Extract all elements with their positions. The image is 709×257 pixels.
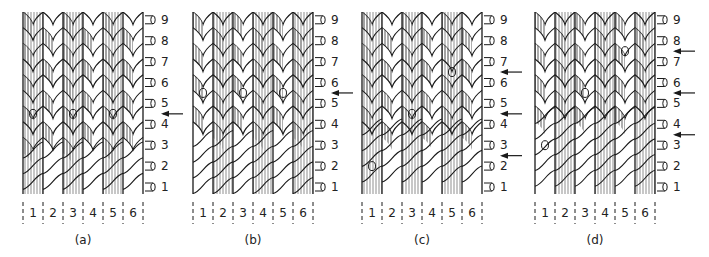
row-label-c-1: 1 (500, 181, 508, 193)
column-label-c-6: 6 (466, 207, 478, 219)
row-label-a-7: 7 (161, 56, 169, 68)
row-label-a-9: 9 (161, 14, 169, 26)
row-label-d-8: 8 (673, 35, 681, 47)
panel-c (360, 0, 522, 224)
row-label-b-4: 4 (331, 118, 339, 130)
row-label-d-6: 6 (673, 77, 681, 89)
row-label-b-6: 6 (331, 77, 339, 89)
panel-caption-d: (d) (575, 233, 615, 247)
row-label-c-7: 7 (500, 56, 508, 68)
row-label-a-4: 4 (161, 118, 169, 130)
row-label-c-8: 8 (500, 35, 508, 47)
row-label-c-5: 5 (500, 97, 508, 109)
row-label-a-8: 8 (161, 35, 169, 47)
row-label-d-1: 1 (673, 181, 681, 193)
column-label-b-1: 1 (197, 207, 209, 219)
column-label-b-5: 5 (277, 207, 289, 219)
row-label-d-3: 3 (673, 139, 681, 151)
column-label-c-4: 4 (426, 207, 438, 219)
row-label-b-9: 9 (331, 14, 339, 26)
row-label-b-2: 2 (331, 160, 339, 172)
column-label-d-2: 2 (559, 207, 571, 219)
row-label-b-7: 7 (331, 56, 339, 68)
panel-b (191, 0, 353, 224)
row-label-d-4: 4 (673, 118, 681, 130)
column-label-d-1: 1 (539, 207, 551, 219)
row-label-b-5: 5 (331, 97, 339, 109)
column-label-d-4: 4 (599, 207, 611, 219)
row-label-c-9: 9 (500, 14, 508, 26)
column-label-c-3: 3 (406, 207, 418, 219)
column-label-b-6: 6 (297, 207, 309, 219)
column-label-c-1: 1 (366, 207, 378, 219)
column-label-d-3: 3 (579, 207, 591, 219)
column-label-d-6: 6 (639, 207, 651, 219)
column-label-a-4: 4 (87, 207, 99, 219)
column-label-a-5: 5 (107, 207, 119, 219)
marker-o (539, 135, 551, 155)
row-label-d-7: 7 (673, 56, 681, 68)
panel-caption-a: (a) (63, 233, 103, 247)
row-label-d-2: 2 (673, 160, 681, 172)
row-label-c-3: 3 (500, 139, 508, 151)
row-label-b-1: 1 (331, 181, 339, 193)
row-label-a-3: 3 (161, 139, 169, 151)
column-label-a-1: 1 (27, 207, 39, 219)
column-label-c-2: 2 (386, 207, 398, 219)
column-label-a-6: 6 (127, 207, 139, 219)
row-label-d-9: 9 (673, 14, 681, 26)
panel-a (21, 0, 183, 224)
column-label-b-2: 2 (217, 207, 229, 219)
panel-d (533, 0, 695, 224)
panel-caption-b: (b) (233, 233, 273, 247)
row-label-a-6: 6 (161, 77, 169, 89)
row-label-d-5: 5 (673, 97, 681, 109)
row-label-c-2: 2 (500, 160, 508, 172)
row-label-c-6: 6 (500, 77, 508, 89)
column-label-b-3: 3 (237, 207, 249, 219)
column-label-c-5: 5 (446, 207, 458, 219)
panel-caption-c: (c) (402, 233, 442, 247)
row-label-a-5: 5 (161, 97, 169, 109)
column-label-a-2: 2 (47, 207, 59, 219)
row-label-a-2: 2 (161, 160, 169, 172)
column-label-a-3: 3 (67, 207, 79, 219)
column-label-d-5: 5 (619, 207, 631, 219)
row-label-c-4: 4 (500, 118, 508, 130)
column-label-b-4: 4 (257, 207, 269, 219)
row-label-a-1: 1 (161, 181, 169, 193)
row-label-b-8: 8 (331, 35, 339, 47)
row-label-b-3: 3 (331, 139, 339, 151)
